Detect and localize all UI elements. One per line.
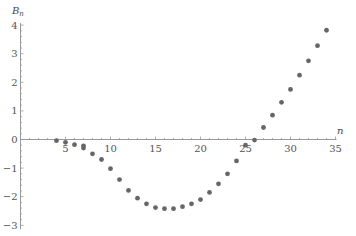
data-point [162,206,167,211]
data-point [315,43,320,48]
y-tick-label: 2 [11,77,17,88]
scatter-chart: 5101520253035−3−2−101234 Bn n [0,0,356,236]
y-tick-label: −1 [3,163,18,174]
data-point [288,87,293,92]
data-point [135,196,140,201]
data-point [297,73,302,78]
x-tick-label: 35 [329,143,342,154]
data-point [81,143,86,148]
data-point [72,142,77,147]
ticks: 5101520253035−3−2−101234 [3,20,342,231]
data-point [126,188,131,193]
x-tick-label: 20 [194,143,207,154]
data-point [270,113,275,118]
x-tick-label: 30 [284,143,297,154]
data-point [243,143,248,148]
data-point [216,181,221,186]
y-tick-label: 0 [11,134,17,145]
data-point [279,100,284,105]
y-tick-label: 1 [11,105,17,116]
data-point [198,197,203,202]
data-point [306,58,311,63]
data-point [63,140,68,145]
y-axis-label: Bn [11,5,24,18]
data-point [90,151,95,156]
y-tick-label: 4 [11,20,17,31]
data-point [171,206,176,211]
y-tick-label: −3 [3,220,18,231]
data-point [234,159,239,164]
x-tick-label: 10 [104,143,117,154]
data-point [144,201,149,206]
data-point [252,138,257,143]
data-point [189,201,194,206]
data-point [153,205,158,210]
x-axis-label: n [337,125,343,136]
data-point [99,157,104,162]
data-point [108,166,113,171]
data-point [261,125,266,130]
data-point [54,138,59,143]
y-tick-label: −2 [3,191,18,202]
data-point [180,204,185,209]
x-tick-label: 15 [149,143,162,154]
axes [21,23,337,229]
data-point [207,190,212,195]
y-tick-label: 3 [11,48,17,59]
data-points [54,28,329,211]
data-point [225,171,230,176]
data-point [117,177,122,182]
data-point [324,28,329,33]
